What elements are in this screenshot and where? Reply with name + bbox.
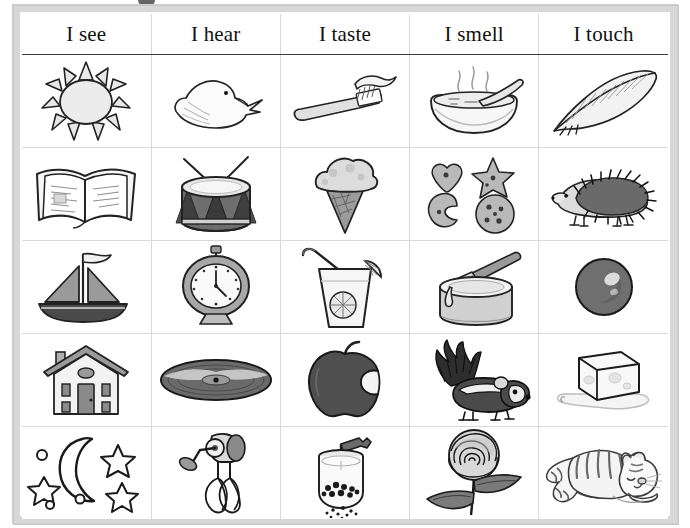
worksheet-page: I see I hear I taste I smell I touch xyxy=(0,0,690,528)
column-header-taste: I taste xyxy=(280,14,409,55)
cell-taste-4 xyxy=(280,334,409,427)
toothbrush-icon xyxy=(281,55,409,147)
pepper-grinder-icon xyxy=(281,427,409,519)
cell-hear-4 xyxy=(151,334,280,427)
cell-taste-2 xyxy=(280,148,409,241)
cell-hear-1 xyxy=(151,55,280,148)
cell-touch-1 xyxy=(539,55,668,148)
cell-see-4 xyxy=(22,334,151,427)
ball-icon xyxy=(539,241,668,333)
cell-smell-3 xyxy=(410,241,539,334)
bitten-apple-icon xyxy=(281,334,409,426)
sun-icon xyxy=(22,55,151,147)
cell-see-1 xyxy=(22,55,151,148)
cell-taste-5 xyxy=(280,427,409,520)
column-header-touch: I touch xyxy=(539,14,668,55)
table-row xyxy=(22,148,668,241)
clock-icon xyxy=(152,241,280,333)
vinyl-record-icon xyxy=(152,334,280,426)
lemonade-icon xyxy=(281,241,409,333)
hedgehog-icon xyxy=(539,148,668,240)
moon-stars-icon xyxy=(22,427,151,519)
soup-bowl-icon xyxy=(410,55,538,147)
drum-icon xyxy=(152,148,280,240)
cell-hear-2 xyxy=(151,148,280,241)
cell-touch-4 xyxy=(539,334,668,427)
column-header-hear: I hear xyxy=(151,14,280,55)
hand-mixer-icon xyxy=(152,427,280,519)
cell-see-5 xyxy=(22,427,151,520)
cell-see-2 xyxy=(22,148,151,241)
table-header-row: I see I hear I taste I smell I touch xyxy=(22,14,668,55)
cell-hear-5 xyxy=(151,427,280,520)
ice-cream-icon xyxy=(281,148,409,240)
cell-smell-2 xyxy=(410,148,539,241)
open-book-icon xyxy=(22,148,151,240)
cell-see-3 xyxy=(22,241,151,334)
cell-smell-5 xyxy=(410,427,539,520)
cell-taste-3 xyxy=(280,241,409,334)
cell-touch-5 xyxy=(539,427,668,520)
table-row xyxy=(22,55,668,148)
cell-touch-3 xyxy=(539,241,668,334)
skunk-icon xyxy=(410,334,538,426)
table-row xyxy=(22,241,668,334)
cat-icon xyxy=(539,427,668,519)
cell-hear-3 xyxy=(151,241,280,334)
cell-taste-1 xyxy=(280,55,409,148)
house-icon xyxy=(22,334,151,426)
cookies-icon xyxy=(410,148,538,240)
column-header-smell: I smell xyxy=(410,14,539,55)
ice-cube-icon xyxy=(539,334,668,426)
paint-can-icon xyxy=(410,241,538,333)
sailboat-icon xyxy=(22,241,151,333)
cell-smell-4 xyxy=(410,334,539,427)
rose-icon xyxy=(410,427,538,519)
table-frame: I see I hear I taste I smell I touch xyxy=(22,14,668,514)
cell-smell-1 xyxy=(410,55,539,148)
cell-touch-2 xyxy=(539,148,668,241)
table-row xyxy=(22,334,668,427)
five-senses-table: I see I hear I taste I smell I touch xyxy=(22,14,668,519)
binding-hole-mark-icon xyxy=(138,0,155,7)
table-row xyxy=(22,427,668,520)
duck-icon xyxy=(152,55,280,147)
column-header-see: I see xyxy=(22,14,151,55)
feather-icon xyxy=(539,55,668,147)
